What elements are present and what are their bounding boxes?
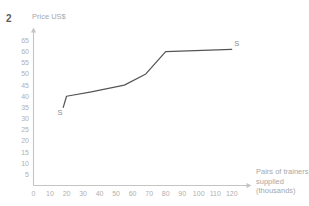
x-tick-label: 10	[46, 190, 54, 197]
y-tick-label: 15	[21, 149, 29, 156]
y-tick-label: 35	[21, 104, 29, 111]
y-tick-label: 30	[21, 115, 29, 122]
x-tick-label: 70	[145, 190, 153, 197]
supply-curve-label: S	[234, 39, 239, 48]
y-tick-label: 60	[21, 48, 29, 55]
x-axis-tick-labels: 0102030405060708090100110120	[32, 190, 238, 197]
x-tick-label: 80	[162, 190, 170, 197]
supply-curve-label: S	[57, 108, 62, 117]
y-tick-label: 40	[21, 93, 29, 100]
y-tick-label: 25	[21, 126, 29, 133]
supply-curve-chart: 6560555045403530252015105 01020304050607…	[0, 0, 309, 206]
y-tick-label: 20	[21, 137, 29, 144]
x-tick-label: 20	[63, 190, 71, 197]
y-tick-label: 10	[21, 160, 29, 167]
curve-annotations: SS	[57, 39, 239, 117]
x-tick-label: 30	[79, 190, 87, 197]
y-tick-label: 65	[21, 37, 29, 44]
x-tick-label: 60	[129, 190, 137, 197]
x-axis-arrow-icon	[247, 183, 252, 188]
x-tick-label: 40	[96, 190, 104, 197]
chart-axes	[31, 28, 252, 189]
y-axis-arrow-icon	[31, 28, 36, 33]
x-tick-label: 50	[112, 190, 120, 197]
y-tick-label: 55	[21, 59, 29, 66]
x-tick-label: 0	[32, 190, 36, 197]
x-tick-label: 110	[210, 190, 221, 197]
y-axis-tick-labels: 6560555045403530252015105	[21, 37, 29, 178]
x-tick-label: 90	[178, 190, 186, 197]
y-tick-label: 45	[21, 82, 29, 89]
y-tick-label: 50	[21, 70, 29, 77]
chart-page: 2 Price US$ Pairs of trainers supplied (…	[0, 0, 309, 206]
chart-series	[63, 49, 232, 107]
supply-curve-line	[63, 49, 232, 107]
x-tick-label: 100	[193, 190, 205, 197]
x-tick-label: 120	[226, 190, 238, 197]
y-tick-label: 5	[25, 171, 29, 178]
